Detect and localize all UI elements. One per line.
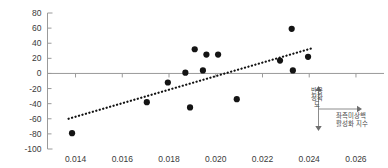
data-point	[289, 26, 295, 32]
y-tick-label: 0	[37, 68, 42, 78]
x-tick-label: 0.024	[299, 154, 321, 164]
data-point	[215, 51, 221, 57]
x-axis-annotation-line2: 활성화 지수	[336, 120, 388, 128]
x-tick-label: 0.026	[345, 154, 367, 164]
data-point	[144, 99, 150, 105]
y-axis-tick-labels: 806040200-20-40-60-80-100	[24, 8, 41, 154]
chart-canvas: 806040200-20-40-60-80-100 0.0140.0160.01…	[0, 0, 388, 168]
data-point	[69, 130, 75, 136]
data-point	[234, 96, 240, 102]
x-axis-tick-labels: 0.0140.0160.0180.0200.0220.0240.026	[65, 154, 367, 164]
y-axis-annotation-label: 반응정확도	[311, 88, 323, 134]
x-tick-label: 0.022	[252, 154, 274, 164]
y-tick-label: -40	[29, 99, 42, 109]
x-tick-label: 0.014	[65, 154, 87, 164]
x-axis-annotation-label: 좌측미상핵 활성화 지수	[336, 112, 388, 128]
x-tick-label: 0.016	[112, 154, 134, 164]
y-tick-label: -100	[24, 144, 41, 154]
data-point	[165, 79, 171, 85]
y-tick-label: -60	[29, 114, 42, 124]
y-tick-label: 20	[32, 53, 42, 63]
x-tick-label: 0.018	[158, 154, 180, 164]
scatter-plot-figure: 806040200-20-40-60-80-100 0.0140.0160.01…	[0, 0, 388, 168]
data-point-series	[69, 26, 311, 136]
data-point	[277, 58, 283, 64]
data-point	[200, 67, 206, 73]
y-tick-label: -80	[29, 129, 42, 139]
data-point	[305, 54, 311, 60]
y-tick-label: 40	[32, 38, 42, 48]
data-point	[203, 51, 209, 57]
y-tick-label: -20	[29, 84, 42, 94]
x-axis-annotation-line1: 좌측미상핵	[336, 112, 388, 120]
data-point	[187, 104, 193, 110]
y-tick-label: 60	[32, 23, 42, 33]
y-axis-annotation-text: 반응정확도	[311, 87, 323, 109]
x-tick-label: 0.020	[205, 154, 227, 164]
data-point	[290, 67, 296, 73]
y-axis-line	[48, 13, 53, 149]
data-point	[192, 46, 198, 52]
y-axis-ticks	[48, 28, 52, 134]
x-axis-ticks	[76, 73, 356, 77]
y-tick-label: 80	[32, 8, 42, 18]
data-point	[182, 70, 188, 76]
